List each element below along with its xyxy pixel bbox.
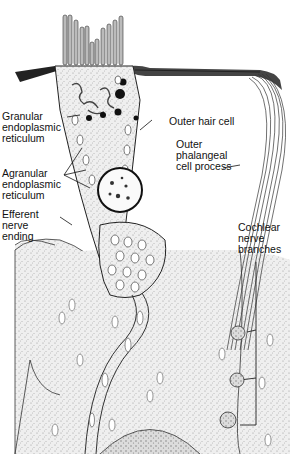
label-efferent-nerve: Efferent nerve ending	[2, 209, 39, 242]
label-agranular-er: Agranular endoplasmic reticulum	[2, 168, 61, 201]
label-outer-hair-cell: Outer hair cell	[169, 116, 234, 127]
label-cochlear-nerve: Cochlear nerve branches	[238, 222, 281, 255]
stereocilia	[63, 15, 123, 65]
label-granular-er: Granular endoplasmic reticulum	[2, 111, 61, 144]
label-outer-phalangeal: Outer phalangeal cell process	[176, 139, 231, 172]
